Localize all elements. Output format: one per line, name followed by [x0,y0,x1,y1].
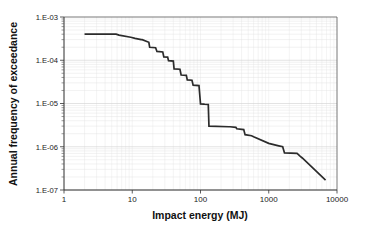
x-axis-title: Impact energy (MJ) [152,209,248,221]
y-axis-title: Annual frequency of exceedance [7,22,19,186]
y-tick-label: 1.E-05 [36,99,58,108]
y-tick-label: 1.E-06 [36,143,58,152]
y-tick-label: 1.E-07 [36,186,58,195]
x-tick-label: 10000 [326,195,349,204]
y-tick-label: 1.E-03 [36,13,58,22]
chart-container: 1.E-031.E-041.E-051.E-061.E-07 110100100… [0,0,367,231]
y-tick-label: 1.E-04 [36,56,58,65]
x-tick-label: 1000 [260,195,278,204]
x-tick-label: 10 [128,195,137,204]
exceedance-frequency-chart: 1.E-031.E-041.E-051.E-061.E-07 110100100… [0,0,367,231]
chart-background [0,0,367,231]
x-tick-label: 100 [194,195,208,204]
x-tick-label: 1 [62,195,67,204]
